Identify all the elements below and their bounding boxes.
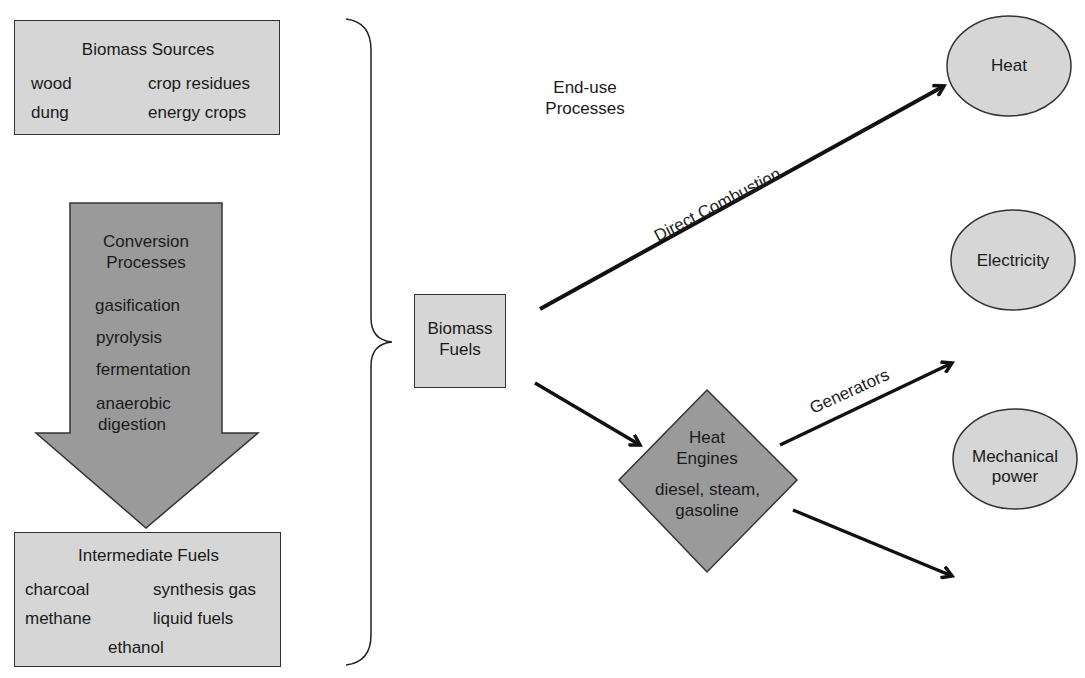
conversion-item: anaerobic <box>96 393 171 414</box>
source-item: dung <box>31 102 69 123</box>
fuel-item: liquid fuels <box>153 608 233 629</box>
biomass-sources-title: Biomass Sources <box>15 39 281 60</box>
heat-engines-line1: Heat <box>647 427 767 448</box>
biomass-fuels-line1: Biomass <box>415 318 505 339</box>
direct-combustion-label: Direct Combustion <box>651 164 784 245</box>
end-use-label-line1: End-use <box>525 77 645 98</box>
intermediate-fuels-box: Intermediate Fuels charcoal synthesis ga… <box>14 532 281 667</box>
biomass-sources-box: Biomass Sources wood crop residues dung … <box>14 20 280 135</box>
conversion-item: gasification <box>95 295 180 316</box>
conversion-item: pyrolysis <box>96 327 162 348</box>
fuel-item: ethanol <box>108 637 164 658</box>
biomass-fuels-box: Biomass Fuels <box>414 294 506 388</box>
end-use-label-line2: Processes <box>525 98 645 119</box>
fuel-item: charcoal <box>25 579 89 600</box>
conversion-title-line1: Conversion <box>70 231 222 252</box>
conversion-title-line2: Processes <box>70 252 222 273</box>
biomass-fuels-line2: Fuels <box>415 339 505 360</box>
heat-engines-line3: diesel, steam, <box>640 479 775 500</box>
generators-label: Generators <box>807 365 892 418</box>
fuel-item: methane <box>25 608 91 629</box>
mechanical-node-label-line2: power <box>955 466 1075 487</box>
fuel-item: synthesis gas <box>153 579 256 600</box>
source-item: wood <box>31 73 72 94</box>
electricity-node-label: Electricity <box>953 250 1073 271</box>
grouping-brace <box>346 19 392 665</box>
mechanical-node-label-line1: Mechanical <box>955 446 1075 467</box>
heat-engines-line2: Engines <box>647 448 767 469</box>
source-item: energy crops <box>148 102 246 123</box>
conversion-item: digestion <box>98 414 166 435</box>
source-item: crop residues <box>148 73 250 94</box>
heat-node-label: Heat <box>949 55 1069 76</box>
conversion-item: fermentation <box>96 359 191 380</box>
fuels-to-engines-arrow <box>535 383 640 445</box>
engines-to-mechanical-arrow <box>793 510 952 576</box>
heat-engines-line4: gasoline <box>647 500 767 521</box>
intermediate-fuels-title: Intermediate Fuels <box>15 545 282 566</box>
